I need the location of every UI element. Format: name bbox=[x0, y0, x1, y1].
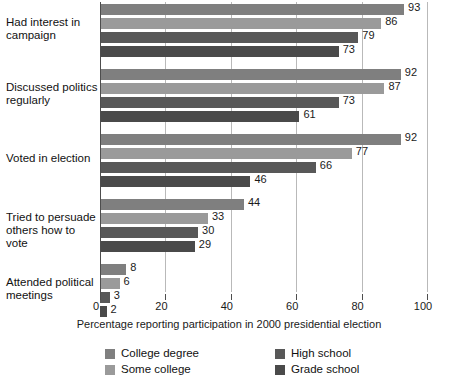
legend-label: College degree bbox=[121, 347, 199, 360]
bar bbox=[100, 46, 339, 57]
legend-label: High school bbox=[291, 347, 351, 360]
x-tick-label: 100 bbox=[414, 300, 432, 312]
x-tick-label: 20 bbox=[155, 300, 167, 312]
bar bbox=[100, 134, 401, 145]
bar-value-label: 8 bbox=[130, 262, 136, 273]
category-label: Voted in election bbox=[6, 152, 98, 165]
bar bbox=[100, 227, 198, 238]
category-label: Discussed politicsregularly bbox=[6, 81, 98, 107]
category-label-line: meetings bbox=[6, 289, 98, 302]
bar-value-label: 3 bbox=[114, 290, 120, 301]
x-tick-mark bbox=[100, 294, 101, 300]
category-label-line: Attended political bbox=[6, 276, 98, 289]
plot-region: 938679739287736192776646443330298632 020… bbox=[0, 0, 458, 300]
bar-value-label: 86 bbox=[385, 16, 397, 27]
category-label-line: Voted in election bbox=[6, 152, 98, 165]
category-label-line: Discussed politics bbox=[6, 81, 98, 94]
bar-value-label: 6 bbox=[124, 276, 130, 287]
x-tick-label: 80 bbox=[351, 300, 363, 312]
bar-row: 77 bbox=[100, 148, 427, 159]
bar-value-label: 2 bbox=[111, 304, 117, 315]
x-tick-label: 0 bbox=[93, 300, 99, 312]
bar bbox=[100, 148, 352, 159]
bar-row: 8 bbox=[100, 264, 427, 275]
bar bbox=[100, 292, 110, 303]
bar-row: 30 bbox=[100, 227, 427, 238]
bar-row: 86 bbox=[100, 18, 427, 29]
legend-swatch-icon bbox=[275, 349, 285, 359]
bar-row: 2 bbox=[100, 306, 427, 317]
plot-area: 938679739287736192776646443330298632 bbox=[100, 2, 427, 292]
bar-value-label: 93 bbox=[408, 2, 420, 13]
legend-label: Grade school bbox=[291, 363, 359, 376]
bar bbox=[100, 241, 195, 252]
x-tick-label: 60 bbox=[286, 300, 298, 312]
bar bbox=[100, 162, 316, 173]
category-label-line: regularly bbox=[6, 94, 98, 107]
bar-value-label: 87 bbox=[388, 81, 400, 92]
legend-label: Some college bbox=[121, 363, 191, 376]
bar-value-label: 66 bbox=[320, 160, 332, 171]
bar-value-label: 33 bbox=[212, 211, 224, 222]
x-tick-label: 40 bbox=[221, 300, 233, 312]
bar-row: 73 bbox=[100, 97, 427, 108]
legend-swatch-icon bbox=[105, 365, 115, 375]
category-label: Tried to persuadeothers how to vote bbox=[6, 211, 98, 250]
bar-value-label: 46 bbox=[254, 174, 266, 185]
x-axis-title: Percentage reporting participation in 20… bbox=[0, 318, 458, 331]
bar-row: 33 bbox=[100, 213, 427, 224]
category-label-line: others how to vote bbox=[6, 224, 98, 250]
bar-row: 66 bbox=[100, 162, 427, 173]
bar-value-label: 79 bbox=[362, 30, 374, 41]
bar bbox=[100, 199, 244, 210]
bar-row: 6 bbox=[100, 278, 427, 289]
bar bbox=[100, 264, 126, 275]
bar-row: 73 bbox=[100, 46, 427, 57]
bar-chart: 938679739287736192776646443330298632 020… bbox=[0, 0, 458, 376]
bar-row: 61 bbox=[100, 111, 427, 122]
category-label-line: campaign bbox=[6, 29, 98, 42]
bar bbox=[100, 4, 404, 15]
bar bbox=[100, 18, 381, 29]
bar bbox=[100, 176, 250, 187]
y-axis-line bbox=[100, 2, 101, 294]
bar-row: 79 bbox=[100, 32, 427, 43]
bar-value-label: 92 bbox=[405, 132, 417, 143]
bar-row: 44 bbox=[100, 199, 427, 210]
bar bbox=[100, 32, 358, 43]
bar-value-label: 73 bbox=[343, 44, 355, 55]
category-label-line: Had interest in bbox=[6, 16, 98, 29]
legend-item[interactable]: Some college bbox=[105, 363, 191, 376]
bar bbox=[100, 69, 401, 80]
bar-row: 92 bbox=[100, 134, 427, 145]
bar-value-label: 29 bbox=[199, 239, 211, 250]
bar-row: 87 bbox=[100, 83, 427, 94]
legend-item[interactable]: Grade school bbox=[275, 363, 359, 376]
legend-item[interactable]: College degree bbox=[105, 347, 199, 360]
bar-row: 46 bbox=[100, 176, 427, 187]
category-label: Attended politicalmeetings bbox=[6, 276, 98, 302]
gridline bbox=[427, 2, 428, 292]
bar-row: 93 bbox=[100, 4, 427, 15]
bar bbox=[100, 83, 384, 94]
bar-value-label: 44 bbox=[248, 197, 260, 208]
bar-value-label: 92 bbox=[405, 67, 417, 78]
legend-swatch-icon bbox=[275, 365, 285, 375]
bar bbox=[100, 306, 107, 317]
bar bbox=[100, 213, 208, 224]
bar bbox=[100, 97, 339, 108]
category-label-line: Tried to persuade bbox=[6, 211, 98, 224]
bar-value-label: 73 bbox=[343, 95, 355, 106]
category-label: Had interest incampaign bbox=[6, 16, 98, 42]
bar-row: 92 bbox=[100, 69, 427, 80]
bar-row: 3 bbox=[100, 292, 427, 303]
bar bbox=[100, 278, 120, 289]
legend-item[interactable]: High school bbox=[275, 347, 351, 360]
legend: College degreeSome collegeHigh schoolGra… bbox=[0, 347, 458, 376]
bar-value-label: 30 bbox=[202, 225, 214, 236]
bar bbox=[100, 111, 299, 122]
bar-value-label: 77 bbox=[356, 146, 368, 157]
legend-swatch-icon bbox=[105, 349, 115, 359]
bar-value-label: 61 bbox=[303, 109, 315, 120]
bar-row: 29 bbox=[100, 241, 427, 252]
